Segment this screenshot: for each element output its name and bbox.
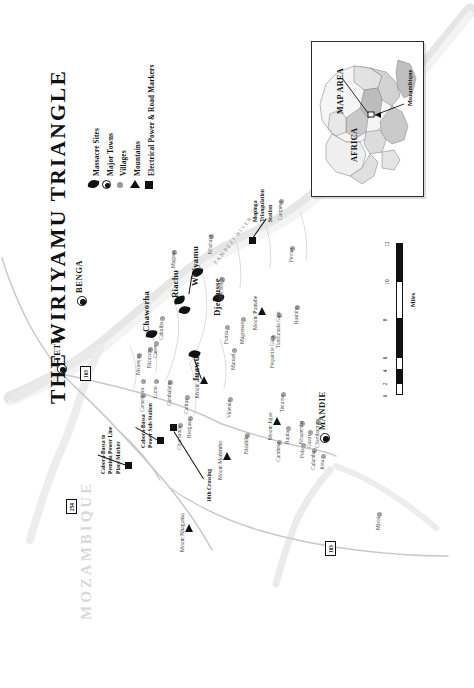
inset-mozambique-label: Mozambique	[406, 69, 413, 106]
town-label-tete: TETE	[52, 337, 62, 362]
small-dot-icon	[117, 182, 123, 188]
mountain-label-pumabe: Mount Pumabe	[252, 296, 258, 330]
circle-dot-icon	[57, 364, 67, 374]
scale-tick-6: 6	[382, 357, 388, 360]
village-label-culamba: Culamba	[310, 451, 316, 470]
road-marker-number: 103	[328, 545, 334, 553]
legend-item-major-towns	[102, 180, 116, 194]
village-label-jima: Jima	[319, 460, 325, 470]
village-label-caritas: Caritas	[183, 399, 189, 414]
scale-tick-10: 10	[384, 279, 390, 284]
legend-label-mountains: Mountains	[133, 141, 142, 176]
legend-label-major-towns: Major Towns	[106, 133, 115, 176]
triangle-icon	[200, 376, 208, 384]
mountain-label-awize: Mount Awize	[194, 368, 200, 398]
mountain-label-madembo: Mount Madembo	[217, 441, 223, 480]
village-label-caripesa: Caripesa	[277, 201, 283, 220]
map-area-box	[368, 112, 374, 117]
marker-label-cabora-substation: Cabora-Bassa Power Sub-Station	[140, 403, 155, 448]
village-label-tecuma: Tecuma	[279, 395, 285, 412]
legend-label-villages: Villages	[119, 150, 128, 176]
town-label-benga: BENGA	[74, 260, 84, 293]
village-label-nicurapa: Nicurapa	[146, 348, 152, 368]
circle-dot-icon	[320, 433, 330, 443]
village-label-fequerire-gala: Fequerire Gala	[269, 336, 275, 368]
triangle-icon	[130, 180, 140, 188]
scale-segment-2	[396, 281, 403, 319]
village-label-nhahuze: Nhahuze	[207, 235, 213, 254]
massacre-label-riachu: Riachu	[170, 270, 180, 298]
inset-africa-shape	[312, 42, 423, 196]
map-canvas: THE WIRIYAMU TRIANGLE MOZAMBIQUE ZAMBEZI…	[0, 0, 474, 688]
small-dot-icon	[232, 348, 237, 353]
small-dot-icon	[160, 316, 165, 321]
legend-item-electrical-power	[145, 181, 159, 195]
triangle-icon	[273, 417, 281, 425]
scale-segment-5	[396, 370, 403, 383]
scale-tick-0: 0	[382, 395, 388, 398]
mountain-label-jajue: Mount Jajue	[267, 412, 273, 440]
square-icon	[249, 237, 256, 244]
inset-map-area-label: MAP AREA	[336, 68, 345, 114]
village-label-chambumura: Chambumura	[314, 419, 320, 448]
triangle-icon	[223, 452, 231, 460]
scale-tick-2: 2	[382, 383, 388, 386]
country-watermark: MOZAMBIQUE	[78, 481, 95, 620]
circle-dot-icon	[102, 180, 111, 189]
village-label-tundumula-galo: Tundumula Galo	[275, 312, 281, 349]
marker-label-cabora-powerline: Cabora-Bassa to Pemisia Power Line Place…	[100, 427, 122, 474]
18th-crossing-leader	[174, 431, 204, 479]
scale-segment-3	[396, 319, 403, 357]
square-icon	[145, 181, 153, 189]
square-icon	[170, 424, 177, 431]
village-label-rasinho: Rasinho	[293, 306, 299, 324]
village-label-lumi: Lumi	[152, 386, 158, 398]
village-label-mivui: Mivui	[375, 517, 381, 530]
village-label-mechengo: Mechengo	[218, 277, 224, 300]
village-label-manuel: Manuel	[230, 354, 236, 370]
village-label-cabuiba: Cabuiba	[158, 322, 164, 340]
inset-africa-label: AFRICA	[350, 128, 359, 162]
square-icon	[157, 437, 164, 444]
small-dot-icon	[225, 325, 230, 330]
village-label-rupia: Rupia	[284, 431, 290, 444]
village-label-cambalame: Cambalame	[166, 380, 172, 406]
small-dot-icon	[141, 379, 146, 384]
village-label-nicuequa: Nicuequa	[135, 354, 141, 375]
road-marker-254: 254	[66, 499, 77, 514]
legend-item-mountains	[130, 180, 144, 194]
village-label-nidabile: Nidabile	[243, 435, 249, 454]
triangle-icon	[185, 524, 193, 532]
scale-tick-12: 12	[384, 241, 390, 246]
marker-label-18th-crossing: 18th Crossing	[206, 469, 213, 502]
small-dot-icon	[321, 454, 326, 459]
diamond-marker-icon	[87, 179, 99, 188]
road-marker-number: 254	[69, 503, 75, 511]
village-label-ferrao: Ferrao	[288, 248, 294, 262]
mountain-label-nhagunsa: Mount Nhagunsa	[179, 513, 185, 552]
village-label-cuere: Cuere	[152, 345, 158, 358]
legend-item-massacre-sites	[88, 180, 102, 194]
scale-tick-8: 8	[382, 319, 388, 322]
village-label-nhapemba: Nhapemba	[298, 421, 304, 444]
circle-dot-icon	[77, 296, 87, 306]
square-icon	[125, 462, 132, 469]
village-label-magoua: Magoua	[170, 250, 176, 268]
village-label-gsuni: Gsuni	[306, 435, 312, 448]
scale-tick-4: 4	[382, 370, 388, 373]
village-label-vidende: Vidende	[226, 400, 232, 418]
river-label: ZAMBEZI RIVER	[212, 215, 253, 266]
scale-segment-4	[396, 357, 403, 370]
road-marker-103-south: 103	[325, 541, 336, 556]
village-label-cumbeza: Cumbeza	[275, 442, 281, 462]
scale-segment-1	[396, 243, 403, 281]
scale-bar: 12 10 8 6 4 2 0 Miles	[393, 243, 408, 395]
scale-unit-label: Miles	[410, 293, 416, 307]
diamond-marker-icon	[178, 305, 191, 315]
village-label-fola: Fola	[299, 448, 305, 458]
legend-label-electrical-power: Electrical Power & Road Markers	[147, 64, 156, 176]
massacre-label-chaworha: Chaworha	[141, 291, 151, 332]
village-label-funda: Funda	[223, 331, 229, 344]
triangle-icon	[258, 307, 266, 315]
road-marker-103-north: 103	[80, 366, 91, 381]
